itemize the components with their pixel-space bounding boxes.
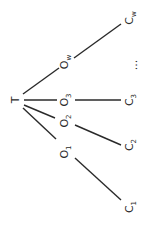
root-node-T: T [10, 97, 21, 104]
ellipsis: ... [128, 60, 139, 71]
edge-O2-C2 [75, 125, 121, 145]
node-C3: C3 [124, 94, 138, 106]
node-C1: C1 [124, 201, 138, 213]
edge-Ow-Cw [74, 24, 121, 58]
edge-T-O2 [24, 105, 55, 118]
node-O1: O1 [59, 145, 73, 158]
edge-T-Ow [23, 68, 59, 94]
node-Cw: Cw [124, 11, 138, 24]
node-Ow: Ow [59, 55, 73, 69]
node-O2: O2 [59, 114, 73, 127]
edge-T-O1 [23, 108, 56, 139]
node-C2: C2 [124, 139, 138, 151]
edge-O1-C1 [75, 158, 121, 200]
node-O3: O3 [59, 93, 73, 106]
tree-diagram [0, 0, 142, 225]
